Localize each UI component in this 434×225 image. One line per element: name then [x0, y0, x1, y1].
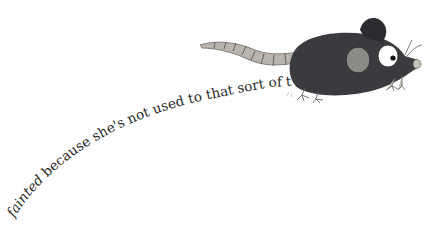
page-canvas: fainted because she's not used to that s…	[0, 0, 434, 225]
mouse-illustration	[200, 18, 422, 103]
caption-text: because she's not used to that sort of t…	[0, 0, 292, 183]
caption-emphasis: fainted	[2, 171, 46, 220]
tail-icon	[200, 42, 300, 66]
nose-icon	[413, 60, 421, 69]
grass-scribble-icon	[287, 92, 292, 97]
book-page: fainted because she's not used to that s…	[0, 0, 434, 225]
curved-caption: fainted because she's not used to that s…	[0, 0, 292, 220]
caption-path: fainted because she's not used to that s…	[0, 0, 292, 220]
pupil-icon	[390, 55, 395, 60]
cheek-icon	[346, 47, 370, 73]
eye-icon	[378, 45, 398, 67]
